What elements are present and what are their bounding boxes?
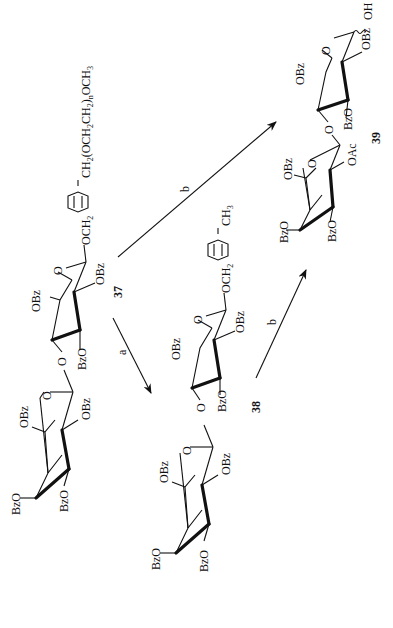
benzene-ring (208, 240, 228, 260)
compound-number-38: 38 (249, 401, 263, 413)
substituent-obz: OBz (359, 28, 373, 50)
arrow-38-to-39: b (256, 270, 306, 378)
substituent-obz: OBz (29, 290, 43, 312)
compound-39: BzO BzO OBz OAc O O OBz BzO OBz O OH 39 (277, 2, 383, 243)
compound-38-ring-2: OBz BzO OBz O (169, 293, 247, 412)
compound-number-37: 37 (111, 286, 125, 298)
substituent-obz: OBz (79, 398, 93, 420)
ring-oxygen: O (51, 266, 65, 275)
substituent-bzo: BzO (341, 108, 355, 130)
reagent-label-a: a (115, 349, 129, 355)
compound-37-ring-1: BzO BzO OBz OBz O (9, 370, 93, 515)
substituent-bzo: BzO (57, 490, 71, 512)
compound-number-39: 39 (369, 132, 383, 144)
compound-38-aglycon: OCH2 CH3 (208, 205, 235, 293)
ring-oxygen: O (305, 159, 319, 168)
substituent-obz: OBz (17, 406, 31, 428)
linker-och2: OCH2 (79, 216, 95, 245)
substituent-obz: OBz (157, 461, 171, 483)
linker-och2: OCH2 (219, 264, 235, 293)
aglycon-peg-chain: CH2(OCH2CH2)nOCH3 (79, 66, 95, 178)
compound-38-ring-1: BzO BzO OBz OBz O (149, 425, 233, 572)
compound-37-ring-2: OBz BzO OBz O (29, 245, 107, 370)
substituent-bzo: BzO (325, 220, 339, 242)
substituent-oac: OAc (345, 143, 359, 166)
ring-oxygen: O (319, 46, 333, 55)
substituent-obz: OBz (219, 453, 233, 475)
substituent-bzo: BzO (277, 221, 291, 243)
glycosidic-oxygen: O (322, 125, 336, 134)
substituent-obz: OBz (233, 311, 247, 333)
arrow-37-to-38: a (113, 318, 151, 393)
arrow-37-to-39: b (118, 122, 276, 257)
compound-38: BzO BzO OBz OBz O O OBz BzO OBz O OCH2 (149, 205, 263, 572)
anomeric-hydroxyl: OH (361, 2, 375, 20)
benzene-ring (68, 192, 88, 212)
aglycon-methyl: CH3 (219, 205, 235, 226)
substituent-obz: OBz (293, 63, 307, 85)
ring-oxygen: O (191, 315, 205, 324)
substituent-bzo: BzO (149, 548, 163, 570)
substituent-obz: OBz (93, 263, 107, 285)
glycosidic-oxygen: O (55, 357, 69, 366)
substituent-bzo: BzO (215, 390, 229, 412)
ring-oxygen: O (180, 446, 194, 455)
compound-37-aglycon: OCH2 CH2(OCH2CH2)nOCH3 (68, 66, 95, 245)
compound-39-ring-2: OBz BzO OBz O OH (293, 2, 375, 130)
substituent-bzo: BzO (75, 348, 89, 370)
reaction-scheme: BzO BzO OBz OBz O O OBz BzO OBz O (0, 0, 393, 628)
substituent-obz: OBz (281, 158, 295, 180)
reagent-label-b: b (265, 319, 279, 325)
ring-oxygen: O (40, 391, 54, 400)
substituent-bzo: BzO (9, 493, 23, 515)
glycosidic-oxygen: O (194, 403, 208, 412)
reagent-label-b: b (178, 186, 192, 192)
compound-39-ring-1: BzO BzO OBz OAc O (277, 135, 359, 243)
substituent-bzo: BzO (197, 550, 211, 572)
compound-37: BzO BzO OBz OBz O O OBz BzO OBz O (9, 66, 125, 515)
substituent-obz: OBz (169, 338, 183, 360)
